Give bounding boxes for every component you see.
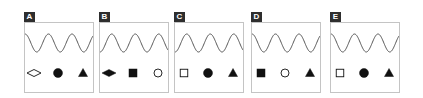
- sine-wave-icon: [175, 34, 243, 52]
- sine-wave-icon: [25, 34, 93, 52]
- filled-circle-icon: [54, 69, 63, 78]
- filled-square-icon: [257, 69, 265, 77]
- sine-wave-icon: [252, 34, 320, 52]
- option-label: B: [99, 12, 110, 22]
- option-label: C: [174, 12, 185, 22]
- filled-triangle-icon: [385, 69, 394, 77]
- option-a[interactable]: A: [24, 12, 94, 93]
- option-c[interactable]: C: [174, 12, 244, 93]
- filled-square-icon: [129, 69, 137, 77]
- sine-wave-icon: [100, 34, 168, 52]
- hollow-square-icon: [336, 69, 344, 77]
- filled-circle-icon: [204, 69, 213, 78]
- filled-circle-icon: [360, 69, 369, 78]
- sine-wave-icon: [331, 34, 399, 52]
- option-frame: [174, 22, 244, 93]
- option-frame: [99, 22, 169, 93]
- hollow-circle-icon: [154, 69, 162, 77]
- hollow-square-icon: [180, 69, 188, 77]
- option-label: D: [251, 12, 262, 22]
- option-frame: [24, 22, 94, 93]
- option-label: A: [24, 12, 35, 22]
- option-label: E: [330, 12, 341, 22]
- filled-triangle-icon: [79, 69, 88, 77]
- hollow-diamond-icon: [27, 70, 41, 77]
- option-e[interactable]: E: [330, 12, 400, 93]
- hollow-circle-icon: [281, 69, 289, 77]
- filled-diamond-icon: [102, 70, 116, 77]
- filled-triangle-icon: [306, 69, 315, 77]
- option-d[interactable]: D: [251, 12, 321, 93]
- option-b[interactable]: B: [99, 12, 169, 93]
- option-frame: [330, 22, 400, 93]
- filled-triangle-icon: [229, 69, 238, 77]
- option-frame: [251, 22, 321, 93]
